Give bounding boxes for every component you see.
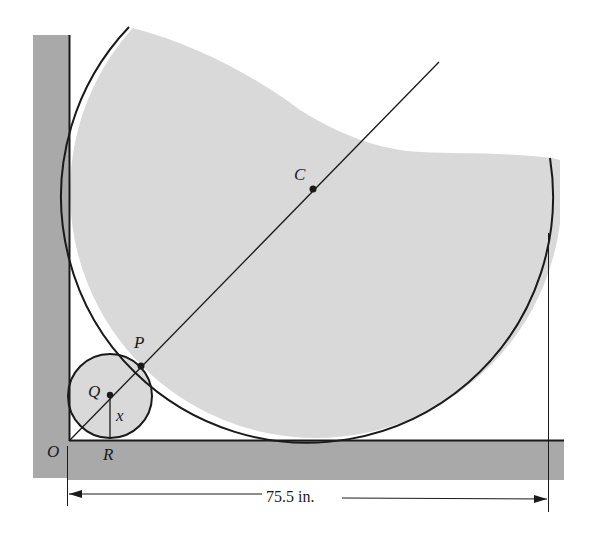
arrowhead-right-icon <box>534 495 547 503</box>
label-q: Q <box>88 382 100 401</box>
label-p: P <box>133 333 144 352</box>
dimension-line-right <box>342 498 547 499</box>
wall <box>33 35 69 478</box>
arrowhead-left-icon <box>69 490 82 498</box>
point-c <box>310 186 317 193</box>
diagram-canvas: O R Q x P C 75.5 in. <box>0 0 589 538</box>
dimension-label: 75.5 in. <box>266 488 314 505</box>
point-p <box>138 363 145 370</box>
label-r: R <box>102 445 114 464</box>
label-x: x <box>115 406 124 425</box>
label-o: O <box>47 442 59 461</box>
floor <box>68 441 564 480</box>
point-q <box>107 392 113 398</box>
label-c: C <box>294 165 306 184</box>
